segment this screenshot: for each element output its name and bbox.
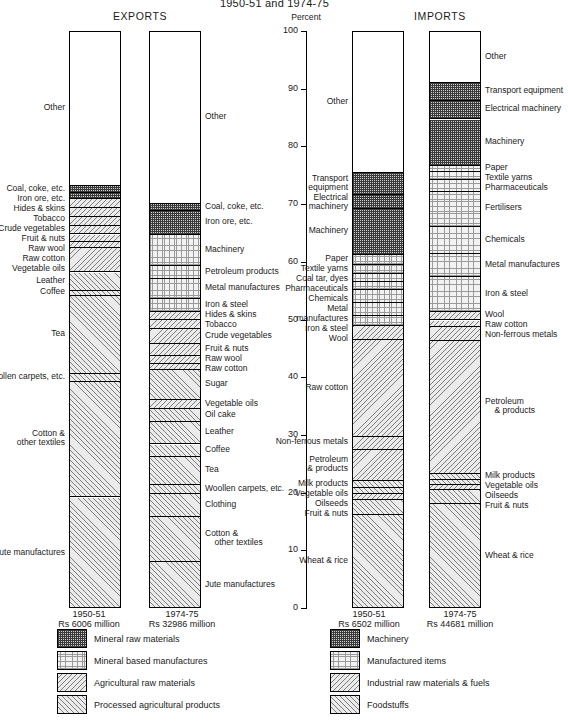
stack-segment[interactable] bbox=[430, 277, 480, 312]
stack-segment[interactable] bbox=[70, 186, 120, 193]
stack-segment[interactable] bbox=[430, 504, 480, 608]
stack-segment[interactable] bbox=[150, 344, 200, 356]
legend-item[interactable]: Industrial raw materials & fuels bbox=[330, 673, 490, 692]
stack-segment[interactable] bbox=[430, 180, 480, 192]
stack-segment[interactable] bbox=[430, 326, 480, 341]
stack-segment[interactable] bbox=[430, 166, 480, 172]
stack-segment[interactable] bbox=[70, 241, 120, 248]
stack-segment[interactable] bbox=[353, 209, 403, 255]
stack-segment[interactable] bbox=[150, 485, 200, 494]
stack-segment[interactable] bbox=[150, 204, 200, 211]
legend-item[interactable]: Mineral based manufactures bbox=[57, 651, 220, 670]
stack-segment[interactable] bbox=[150, 494, 200, 517]
stack-segment[interactable] bbox=[150, 32, 200, 204]
stack-segment[interactable] bbox=[430, 490, 480, 504]
legend-item[interactable]: Manufactured items bbox=[330, 651, 490, 670]
legend-item[interactable]: Mineral raw materials bbox=[57, 629, 220, 648]
segment-label: Raw wool bbox=[205, 354, 325, 363]
stack-segment[interactable] bbox=[70, 235, 120, 242]
stack-segment[interactable] bbox=[150, 409, 200, 422]
stack-segment[interactable] bbox=[430, 321, 480, 327]
stack-segment[interactable] bbox=[430, 254, 480, 277]
stack-segment[interactable] bbox=[353, 265, 403, 274]
stack-segment[interactable] bbox=[150, 517, 200, 562]
stack-segment[interactable] bbox=[70, 199, 120, 208]
stack-segment[interactable] bbox=[150, 445, 200, 457]
stack-segment[interactable] bbox=[353, 316, 403, 326]
stack-segment[interactable] bbox=[150, 320, 200, 329]
stack-segment[interactable] bbox=[150, 279, 200, 299]
stack-segment[interactable] bbox=[70, 498, 120, 608]
segment-label: Milk products bbox=[234, 479, 348, 488]
stacked-column-exports-1950[interactable] bbox=[69, 31, 121, 608]
stack-segment[interactable] bbox=[150, 235, 200, 266]
legend-item[interactable]: Machinery bbox=[330, 629, 490, 648]
legend-label: Processed agricultural products bbox=[94, 700, 220, 710]
stack-segment[interactable] bbox=[70, 193, 120, 199]
stack-segment[interactable] bbox=[150, 562, 200, 608]
stack-segment[interactable] bbox=[70, 374, 120, 382]
imports-legend: MachineryManufactured itemsIndustrial ra… bbox=[330, 629, 490, 717]
stack-segment[interactable] bbox=[353, 488, 403, 494]
stack-segment[interactable] bbox=[430, 227, 480, 254]
stack-segment[interactable] bbox=[150, 364, 200, 370]
stack-segment[interactable] bbox=[150, 400, 200, 409]
stack-segment[interactable] bbox=[353, 255, 403, 265]
stack-segment[interactable] bbox=[353, 481, 403, 488]
legend-item[interactable]: Agricultural raw materials bbox=[57, 673, 220, 692]
stack-segment[interactable] bbox=[70, 226, 120, 234]
stack-segment[interactable] bbox=[353, 290, 403, 303]
stack-segment[interactable] bbox=[353, 282, 403, 290]
stack-segment[interactable] bbox=[70, 248, 120, 272]
stack-segment[interactable] bbox=[353, 500, 403, 515]
segment-label: Chemicals bbox=[485, 235, 568, 244]
stack-segment[interactable] bbox=[150, 356, 200, 364]
stack-segment[interactable] bbox=[70, 273, 120, 291]
stack-segment[interactable] bbox=[353, 340, 403, 437]
stack-segment[interactable] bbox=[353, 32, 403, 173]
stack-segment[interactable] bbox=[430, 32, 480, 83]
segment-label: Petroleum & products bbox=[485, 397, 568, 415]
stack-segment[interactable] bbox=[430, 191, 480, 227]
stack-segment[interactable] bbox=[70, 208, 120, 217]
stacked-column-exports-1974[interactable] bbox=[149, 31, 201, 608]
stack-segment[interactable] bbox=[353, 515, 403, 608]
stack-segment[interactable] bbox=[430, 474, 480, 480]
stack-segment[interactable] bbox=[353, 274, 403, 282]
stack-segment[interactable] bbox=[430, 120, 480, 166]
legend-item[interactable]: Processed agricultural products bbox=[57, 695, 220, 714]
stacked-column-imports-1974[interactable] bbox=[429, 31, 481, 608]
stack-segment[interactable] bbox=[353, 450, 403, 481]
stack-segment[interactable] bbox=[150, 299, 200, 312]
legend-label: Foodstuffs bbox=[367, 700, 409, 710]
stack-segment[interactable] bbox=[430, 101, 480, 119]
stack-segment[interactable] bbox=[150, 211, 200, 235]
stack-segment[interactable] bbox=[150, 312, 200, 320]
stack-segment[interactable] bbox=[70, 217, 120, 226]
stack-segment[interactable] bbox=[353, 494, 403, 500]
stack-segment[interactable] bbox=[430, 172, 480, 180]
stack-segment[interactable] bbox=[353, 436, 403, 450]
stack-segment[interactable] bbox=[150, 421, 200, 444]
stack-segment[interactable] bbox=[150, 456, 200, 485]
stack-segment[interactable] bbox=[353, 195, 403, 209]
legend-swatch-icon bbox=[330, 695, 360, 714]
stacked-column-imports-1950[interactable] bbox=[352, 31, 404, 608]
segment-label: Jute manufactures bbox=[205, 580, 325, 589]
stack-segment[interactable] bbox=[150, 266, 200, 279]
stack-segment[interactable] bbox=[430, 341, 480, 474]
stack-segment[interactable] bbox=[70, 32, 120, 186]
stack-segment[interactable] bbox=[353, 303, 403, 316]
legend-item[interactable]: Foodstuffs bbox=[330, 695, 490, 714]
stack-segment[interactable] bbox=[150, 370, 200, 400]
stack-segment[interactable] bbox=[430, 485, 480, 490]
stack-segment[interactable] bbox=[353, 326, 403, 340]
stack-segment[interactable] bbox=[70, 296, 120, 374]
stack-segment[interactable] bbox=[150, 329, 200, 344]
stack-segment[interactable] bbox=[353, 173, 403, 195]
axis-tick-mark bbox=[301, 89, 307, 90]
stack-segment[interactable] bbox=[430, 83, 480, 101]
stack-segment[interactable] bbox=[430, 480, 480, 485]
stack-segment[interactable] bbox=[430, 311, 480, 320]
stack-segment[interactable] bbox=[70, 382, 120, 497]
